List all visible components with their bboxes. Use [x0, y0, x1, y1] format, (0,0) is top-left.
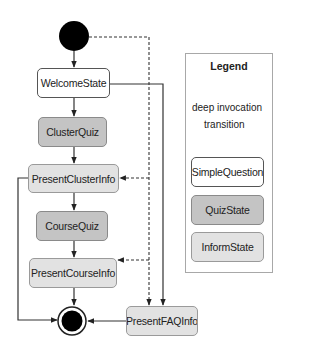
legend-transition-label: transition	[204, 119, 245, 130]
legend-title: Legend	[186, 60, 272, 72]
state-course-quiz[interactable]: CourseQuiz	[36, 211, 108, 241]
state-present-faq-info[interactable]: PresentFAQInfo	[126, 306, 198, 336]
legend-inform-state: InformState	[191, 232, 264, 262]
legend-quiz-state-label: QuizState	[205, 204, 249, 216]
state-course-quiz-label: CourseQuiz	[45, 220, 98, 232]
initial-state	[59, 21, 89, 51]
state-present-course-info[interactable]: PresentCourseInfo	[29, 258, 117, 288]
state-present-cluster-info-label: PresentClusterInfo	[32, 173, 115, 185]
legend-simple-question-label: SimpleQuestion	[192, 166, 263, 178]
legend-quiz-state: QuizState	[191, 195, 264, 225]
legend-inform-state-label: InformState	[201, 241, 253, 253]
legend-deep-invocation-label: deep invocation	[192, 102, 262, 113]
state-cluster-quiz-label: ClusterQuiz	[46, 126, 99, 138]
state-present-faq-info-label: PresentFAQInfo	[126, 315, 198, 327]
state-welcome[interactable]: WelcomeState	[37, 68, 110, 98]
state-welcome-label: WelcomeState	[41, 77, 107, 89]
final-state	[58, 307, 86, 335]
state-present-course-info-label: PresentCourseInfo	[31, 267, 115, 279]
state-present-cluster-info[interactable]: PresentClusterInfo	[28, 164, 119, 193]
state-cluster-quiz[interactable]: ClusterQuiz	[38, 117, 107, 147]
legend-simple-question: SimpleQuestion	[191, 157, 264, 187]
